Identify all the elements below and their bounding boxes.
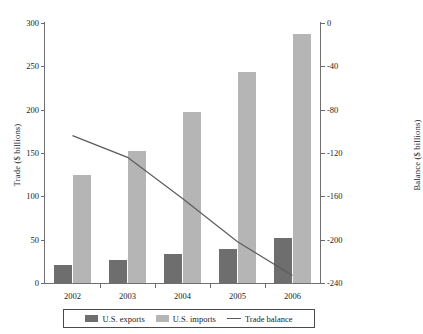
y-axis-left-tick-mark <box>41 283 45 284</box>
bar-exports <box>219 249 237 283</box>
x-axis-tick-label: 2003 <box>103 291 153 301</box>
y-axis-right-tick-mark <box>321 110 325 111</box>
x-axis-tick-label: 2002 <box>48 291 98 301</box>
y-axis-right-tick-label: -200 <box>327 235 361 245</box>
y-axis-right-tick-label: -240 <box>327 278 361 288</box>
y-axis-right-tick-label: -40 <box>327 61 361 71</box>
x-axis-tick-label: 2005 <box>213 291 263 301</box>
plot-area <box>45 23 320 283</box>
legend-swatch-icon <box>85 315 98 322</box>
y-axis-right-tick-mark <box>321 23 325 24</box>
legend-item: U.S. exports <box>85 314 144 324</box>
legend-item: Trade balance <box>227 314 293 324</box>
y-axis-right-tick-mark <box>321 196 325 197</box>
bar-imports <box>73 175 91 283</box>
legend-label: Trade balance <box>245 314 293 324</box>
y-axis-left-tick-label: 300 <box>9 18 39 28</box>
bar-imports <box>183 112 201 283</box>
legend-label: U.S. exports <box>102 314 144 324</box>
bar-exports <box>274 238 292 283</box>
chart-figure: Trade ($ billions) Balance ($ billions) … <box>0 0 423 334</box>
legend-label: U.S. imports <box>173 314 216 324</box>
x-axis-tick-label: 2006 <box>268 291 318 301</box>
y-axis-right-tick-mark <box>321 153 325 154</box>
bar-imports <box>238 72 256 283</box>
y-axis-left-tick-label: 0 <box>9 278 39 288</box>
y-axis-left-tick-label: 250 <box>9 61 39 71</box>
y-axis-right-tick-mark <box>321 283 325 284</box>
y-axis-right-tick-label: 0 <box>327 18 361 28</box>
bar-imports <box>293 34 311 283</box>
x-axis-tick-mark <box>100 284 101 288</box>
legend-swatch-icon <box>227 318 241 319</box>
y-axis-right-title: Balance ($ billions) <box>412 90 422 220</box>
x-axis-tick-mark <box>210 284 211 288</box>
y-axis-right-tick-label: -80 <box>327 105 361 115</box>
y-axis-right-tick-mark <box>321 240 325 241</box>
y-axis-left-tick-label: 50 <box>9 235 39 245</box>
y-axis-left-tick-label: 200 <box>9 105 39 115</box>
bar-imports <box>128 151 146 283</box>
chart-legend: U.S. exportsU.S. importsTrade balance <box>63 309 315 328</box>
x-axis-line <box>44 283 321 284</box>
x-axis-tick-mark <box>265 284 266 288</box>
y-axis-left-tick-label: 150 <box>9 148 39 158</box>
y-axis-right-tick-label: -160 <box>327 191 361 201</box>
bar-exports <box>54 265 72 283</box>
bar-exports <box>164 254 182 283</box>
bar-exports <box>109 260 127 283</box>
y-axis-left-tick-label: 100 <box>9 191 39 201</box>
legend-swatch-icon <box>156 315 169 322</box>
x-axis-tick-mark <box>155 284 156 288</box>
legend-item: U.S. imports <box>156 314 216 324</box>
y-axis-right-tick-label: -120 <box>327 148 361 158</box>
y-axis-right-tick-mark <box>321 66 325 67</box>
x-axis-tick-label: 2004 <box>158 291 208 301</box>
